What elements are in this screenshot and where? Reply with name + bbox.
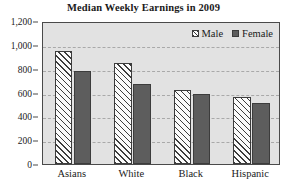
y-axis-tick-label: 1,000	[11, 41, 32, 51]
bars-layer	[43, 23, 279, 164]
y-axis-tick-label: 600	[18, 89, 32, 99]
x-axis-tick-label: White	[118, 168, 144, 179]
bar-female-asians[interactable]	[74, 71, 92, 164]
bar-group	[174, 23, 211, 164]
y-axis-tick-mark	[33, 165, 38, 166]
bar-female-white[interactable]	[133, 84, 151, 164]
y-axis-tick-mark	[33, 45, 38, 46]
bar-male-black[interactable]	[174, 90, 192, 164]
bar-female-black[interactable]	[193, 94, 211, 164]
bar-group	[114, 23, 151, 164]
bar-male-white[interactable]	[114, 63, 132, 164]
bar-chart-figure: Median Weekly Earnings in 2009 020040060…	[0, 0, 287, 191]
x-axis: AsiansWhiteBlackHispanic	[42, 168, 280, 188]
legend-entry-female[interactable]: Female	[232, 28, 273, 39]
bar-female-hispanic[interactable]	[252, 103, 270, 164]
legend-swatch-male-icon	[192, 30, 199, 37]
y-axis-tick-label: 800	[18, 65, 32, 75]
y-axis: 02004006008001,0001,200	[0, 22, 38, 165]
chart-legend: Male Female	[190, 27, 275, 40]
legend-label-male: Male	[202, 28, 224, 39]
x-axis-tick-label: Black	[179, 168, 204, 179]
y-axis-tick-label: 200	[18, 136, 32, 146]
y-axis-tick-label: 0	[27, 160, 32, 170]
y-axis-tick-mark	[33, 69, 38, 70]
y-axis-tick-mark	[33, 93, 38, 94]
bar-male-asians[interactable]	[55, 51, 73, 164]
x-axis-tick-label: Asians	[57, 168, 86, 179]
bar-group	[55, 23, 92, 164]
y-axis-tick-mark	[33, 141, 38, 142]
plot-area: Male Female	[42, 22, 280, 165]
x-axis-tick-label: Hispanic	[232, 168, 269, 179]
legend-entry-male[interactable]: Male	[192, 28, 224, 39]
y-axis-tick-mark	[33, 22, 38, 23]
bar-group	[233, 23, 270, 164]
bar-male-hispanic[interactable]	[233, 97, 251, 164]
chart-title: Median Weekly Earnings in 2009	[0, 2, 287, 13]
y-axis-tick-label: 400	[18, 112, 32, 122]
y-axis-tick-label: 1,200	[11, 17, 32, 27]
legend-label-female: Female	[242, 28, 273, 39]
legend-swatch-female-icon	[232, 30, 239, 37]
y-axis-tick-mark	[33, 117, 38, 118]
